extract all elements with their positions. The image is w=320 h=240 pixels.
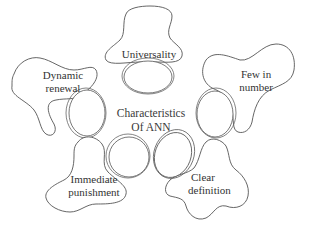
clear-definition-line2: definition (188, 184, 244, 197)
label-clear-definition: Clear definition (184, 171, 244, 197)
ring-universality (124, 61, 172, 93)
universality-line1: Universality (114, 48, 184, 61)
label-universality: Universality (114, 48, 184, 61)
few-in-number-line2: number (228, 81, 284, 94)
label-dynamic-renewal: Dynamic renewal (32, 69, 94, 95)
immediate-punishment-line2: punishment (58, 186, 130, 199)
clear-definition-line1: Clear (188, 171, 244, 184)
center-label: Characteristics Of ANN (110, 106, 192, 134)
label-immediate-punishment: Immediate punishment (58, 173, 130, 199)
ring-few-in-number (197, 91, 233, 137)
center-line1: Characteristics (110, 106, 192, 120)
few-in-number-line1: Few in (228, 68, 284, 81)
ring-immediate-punishment (109, 137, 149, 177)
ring-dynamic-renewal (69, 90, 105, 136)
label-few-in-number: Few in number (228, 68, 284, 94)
dynamic-renewal-line2: renewal (32, 82, 94, 95)
immediate-punishment-line1: Immediate (58, 173, 130, 186)
dynamic-renewal-line1: Dynamic (32, 69, 94, 82)
center-line2: Of ANN (110, 120, 192, 134)
